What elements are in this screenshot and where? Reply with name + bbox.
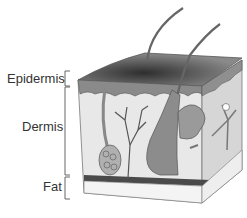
epidermis-bracket xyxy=(65,71,70,86)
label-dermis: Dermis xyxy=(22,120,63,133)
nerve-ending xyxy=(223,104,230,111)
fat-bracket xyxy=(65,177,70,199)
dermis-bracket xyxy=(65,87,70,175)
layer-brackets xyxy=(65,71,70,199)
label-epidermis: Epidermis xyxy=(7,72,65,85)
label-fat: Fat xyxy=(43,180,62,193)
sweat-gland xyxy=(99,145,121,175)
skin-diagram xyxy=(0,0,247,218)
